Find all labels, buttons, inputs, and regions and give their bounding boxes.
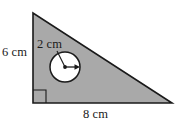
geometry-figure: 6 cm 2 cm 8 cm — [0, 0, 184, 128]
height-label: 6 cm — [2, 46, 27, 59]
base-label: 8 cm — [83, 108, 108, 121]
radius-label: 2 cm — [37, 38, 62, 51]
